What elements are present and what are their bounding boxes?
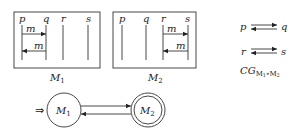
message-label: m xyxy=(26,23,35,34)
cg-node-s: s xyxy=(281,46,286,57)
communication-graph: p q r s CGM1∘M2 xyxy=(240,21,287,78)
initial-state-arrow-icon: ⇒ xyxy=(35,104,44,117)
message-label: m xyxy=(34,40,43,51)
cg-node-q: q xyxy=(281,21,287,32)
msc-m2-caption: M2 xyxy=(147,72,163,85)
process-label-q: q xyxy=(143,13,149,24)
process-label-s: s xyxy=(185,13,190,24)
process-label-p: p xyxy=(119,13,126,24)
process-label-p: p xyxy=(19,13,26,24)
msc-m1: p q r s m m M1 xyxy=(14,12,100,85)
cg-node-r: r xyxy=(241,46,247,57)
process-label-q: q xyxy=(43,13,49,24)
process-label-r: r xyxy=(61,13,67,24)
diagram-canvas: p q r s m m M1 p q r s m m M2 p q r xyxy=(0,0,301,134)
msc-m2: p q r s m m M2 xyxy=(113,12,196,85)
cg-node-p: p xyxy=(240,21,247,32)
process-label-s: s xyxy=(86,13,91,24)
state-m1-label: M1 xyxy=(55,105,71,118)
message-label: m xyxy=(176,40,185,51)
msc-m1-caption: M1 xyxy=(49,72,65,85)
state-m2-label: M2 xyxy=(139,105,155,118)
cg-caption: CGM1∘M2 xyxy=(240,65,280,78)
automaton: ⇒ M1 M2 xyxy=(35,93,165,127)
message-label: m xyxy=(167,23,176,34)
